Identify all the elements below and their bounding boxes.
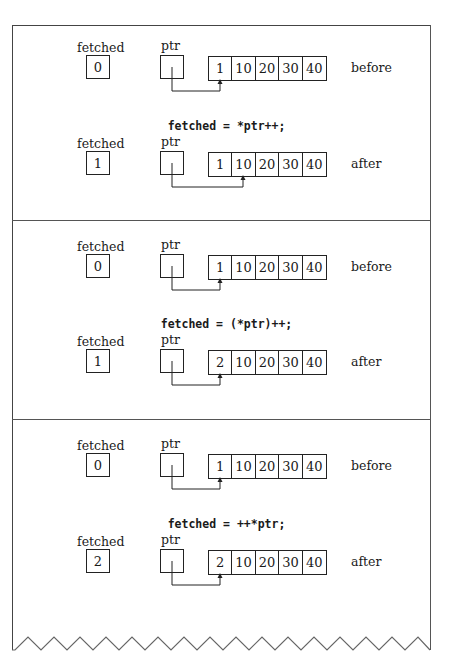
panel-divider-2 [12, 419, 431, 420]
pointer-arrow-icon [0, 332, 453, 402]
pointer-arrow-icon [0, 134, 453, 204]
code-statement: fetched = (*ptr)++; [0, 317, 453, 331]
state-before: fetched 0 ptr 1 10 20 30 40 before [0, 436, 453, 506]
panel-divider-1 [12, 220, 431, 221]
code-statement: fetched = *ptr++; [0, 119, 453, 133]
code-statement: fetched = ++*ptr; [0, 517, 453, 531]
pointer-arrow-icon [0, 532, 453, 602]
pointer-arrow-icon [0, 237, 453, 307]
state-after: fetched 2 ptr 2 10 20 30 40 after [0, 532, 453, 602]
state-after: fetched 1 ptr 1 10 20 30 40 after [0, 134, 453, 204]
state-after: fetched 1 ptr 2 10 20 30 40 after [0, 332, 453, 402]
pointer-arrow-icon [0, 38, 453, 108]
frame-top-border [12, 25, 431, 26]
state-before: fetched 0 ptr 1 10 20 30 40 before [0, 237, 453, 307]
torn-edge-zigzag [12, 632, 432, 654]
state-before: fetched 0 ptr 1 10 20 30 40 before [0, 38, 453, 108]
pointer-arrow-icon [0, 436, 453, 506]
